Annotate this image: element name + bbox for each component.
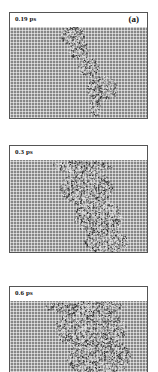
disorder-track [10, 27, 147, 118]
atomic-lattice [10, 301, 147, 372]
panel-tag: (a) [129, 14, 140, 24]
panel-header: 0.6 ps [10, 287, 147, 302]
atomic-lattice [10, 160, 147, 252]
time-label: 0.19 ps [15, 15, 36, 23]
panel-0.6ps: 0.6 ps [9, 286, 148, 372]
time-label: 0.3 ps [15, 148, 33, 156]
disorder-track [10, 160, 147, 252]
disorder-track [10, 301, 147, 372]
time-label: 0.6 ps [15, 289, 33, 297]
atomic-lattice [10, 27, 147, 118]
panel-0.3ps: 0.3 ps [9, 145, 148, 253]
panel-header: 0.3 ps [10, 146, 147, 161]
panel-0.19ps: 0.19 ps (a) [9, 12, 148, 119]
panel-header: 0.19 ps (a) [10, 13, 147, 28]
